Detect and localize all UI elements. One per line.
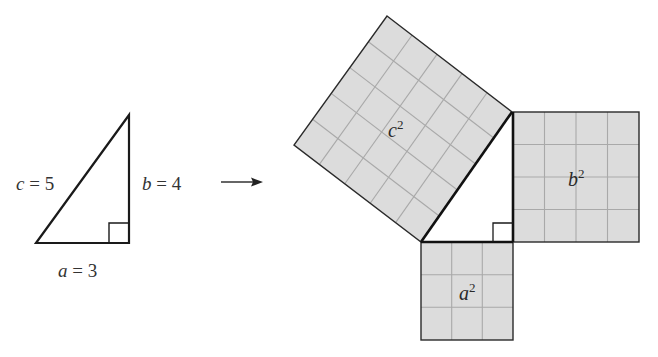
a-squared-square: a2	[421, 242, 513, 340]
arrow-right-icon	[221, 178, 263, 187]
b-squared-square: b2	[513, 112, 639, 242]
pythagorean-diagram: c = 5 b = 4 a = 3 c2 b2	[0, 0, 658, 357]
label-b: b = 4	[142, 173, 182, 194]
small-triangle-group: c = 5 b = 4 a = 3	[16, 115, 182, 281]
label-a: a = 3	[58, 260, 97, 281]
label-c: c = 5	[16, 173, 54, 194]
right-angle-marker	[109, 223, 129, 243]
